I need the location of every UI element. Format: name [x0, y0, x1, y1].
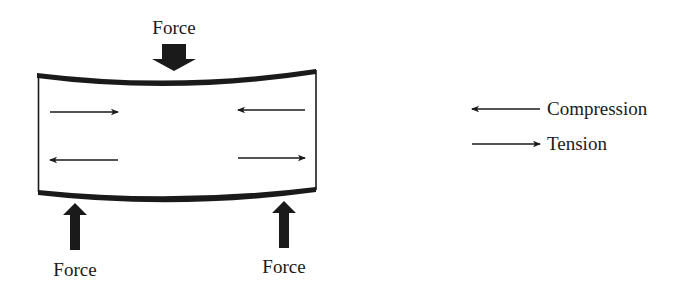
legend-tension-label: Tension — [547, 133, 607, 154]
bottom-left-force-label: Force — [53, 259, 96, 280]
bottom-right-force-label: Force — [262, 256, 305, 277]
legend: Compression Tension — [472, 98, 648, 154]
legend-compression-label: Compression — [547, 98, 648, 119]
top-force-label: Force — [152, 17, 195, 38]
beam — [37, 69, 316, 202]
beam-bending-diagram: Force Force Force Compression Tension — [0, 0, 697, 291]
up-arrow-icon — [63, 203, 87, 250]
beam-top-edge — [37, 69, 316, 86]
up-arrow-icon — [272, 201, 296, 248]
down-arrow-icon — [152, 44, 196, 71]
beam-bottom-edge — [38, 187, 316, 202]
